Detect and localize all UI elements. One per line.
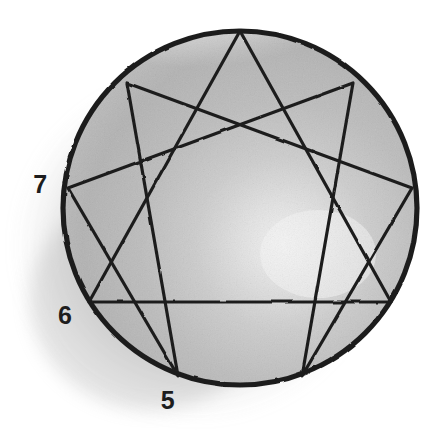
vertex-label-6: 6 bbox=[58, 303, 72, 328]
vertex-label-7: 7 bbox=[33, 172, 47, 197]
enneagram-diagram bbox=[0, 0, 435, 438]
vertex-label-5: 5 bbox=[161, 388, 175, 413]
